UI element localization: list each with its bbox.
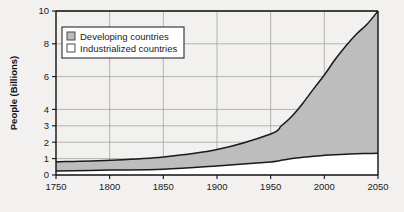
x-tick-label: 2000 — [314, 181, 335, 192]
y-tick-label: 2 — [44, 137, 49, 148]
legend-label-developing: Developing countries — [80, 31, 169, 42]
x-tick-label: 1900 — [206, 181, 227, 192]
y-tick-label: 1 — [44, 153, 49, 164]
y-tick-label: 4 — [44, 104, 49, 115]
x-tick-label: 1800 — [99, 181, 120, 192]
y-tick-label: 8 — [44, 38, 49, 49]
y-tick-label: 0 — [44, 169, 49, 180]
y-tick-label: 10 — [38, 5, 49, 16]
y-tick-label: 6 — [44, 71, 49, 82]
population-area-chart: 1086432101750180018501900195020002050 Pe… — [0, 0, 404, 212]
legend-label-industrialized: Industrialized countries — [80, 43, 177, 54]
y-axis-title: People (Billions) — [8, 56, 19, 130]
x-tick-label: 1750 — [45, 181, 66, 192]
chart-legend[interactable]: Developing countries Industrialized coun… — [62, 27, 184, 58]
x-tick-label: 2050 — [367, 181, 388, 192]
chart-canvas: 1086432101750180018501900195020002050 Pe… — [0, 0, 404, 212]
y-axis-title-text: People (Billions) — [8, 56, 19, 130]
y-tick-label: 3 — [44, 120, 49, 131]
x-tick-label: 1950 — [260, 181, 281, 192]
x-tick-label: 1850 — [153, 181, 174, 192]
legend-swatch-industrialized — [67, 44, 75, 52]
legend-swatch-developing — [67, 32, 75, 40]
